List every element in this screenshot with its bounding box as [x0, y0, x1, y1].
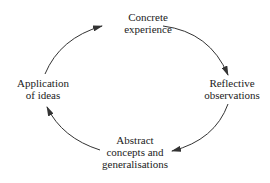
arrow-application-to-concrete — [45, 26, 102, 74]
arrow-reflective-to-abstract — [172, 104, 228, 151]
node-label-line: generalisations — [95, 158, 175, 170]
node-label-line: of ideas — [8, 89, 78, 101]
node-application-of-ideas: Application of ideas — [8, 77, 78, 101]
node-label-line: experience — [113, 23, 183, 35]
node-concrete-experience: Concrete experience — [113, 11, 183, 35]
node-label-line: concepts and — [95, 146, 175, 158]
node-label-line: Application — [8, 77, 78, 89]
arrow-abstract-to-application — [47, 107, 100, 150]
node-label-line: Abstract — [95, 134, 175, 146]
node-abstract-concepts: Abstract concepts and generalisations — [95, 134, 175, 170]
node-label-line: Concrete — [113, 11, 183, 23]
node-label-line: observations — [196, 89, 268, 101]
node-reflective-observations: Reflective observations — [196, 77, 268, 101]
node-label-line: Reflective — [196, 77, 268, 89]
